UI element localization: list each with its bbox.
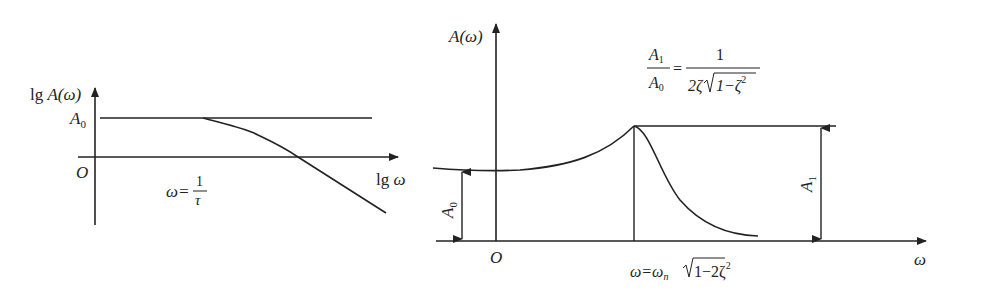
right-resonance-curve-falling (634, 126, 758, 236)
right-resonance-curve-rising (433, 126, 634, 171)
right-origin-label: O (490, 248, 502, 267)
a1-dimension-label: A1 (797, 176, 818, 193)
svg-text:A0: A0 (648, 74, 664, 93)
svg-text:1−2ζ2: 1−2ζ2 (694, 260, 731, 281)
left-log-plot: lg A(ω) A0 O lg ω ω= 1 τ (30, 85, 406, 225)
svg-text:τ: τ (195, 192, 201, 208)
svg-text:1: 1 (196, 174, 203, 189)
peak-frequency-label: ω=ωn 1−2ζ2 (630, 258, 731, 282)
svg-text:A1: A1 (648, 46, 664, 65)
svg-text:2ζ: 2ζ (688, 77, 704, 95)
left-rolloff-curve (203, 118, 386, 213)
frequency-response-diagram: lg A(ω) A0 O lg ω ω= 1 τ A(ω) O ω A0 A1 … (0, 0, 1004, 291)
right-x-axis-label: ω (914, 250, 926, 269)
left-origin-label: O (76, 163, 88, 182)
svg-text:ω=ωn: ω=ωn (630, 263, 668, 282)
right-resonance-plot: A(ω) O ω A0 A1 A1 A0 = 1 2ζ 1−ζ2 ω=ωn 1−… (433, 24, 926, 282)
svg-text:1: 1 (716, 46, 724, 63)
left-x-axis-label: lg ω (376, 170, 406, 189)
a0-dimension-label: A0 (438, 202, 459, 219)
peak-ratio-formula: A1 A0 = 1 2ζ 1−ζ2 (647, 46, 760, 95)
left-corner-frequency-label: ω= 1 τ (166, 174, 207, 208)
svg-text:ω=: ω= (166, 182, 189, 201)
svg-text:=: = (673, 60, 682, 77)
svg-text:1−ζ2: 1−ζ2 (716, 74, 746, 95)
right-y-axis-label: A(ω) (448, 27, 483, 46)
left-a0-label: A0 (69, 109, 86, 130)
left-y-axis-label: lg A(ω) (30, 85, 82, 104)
